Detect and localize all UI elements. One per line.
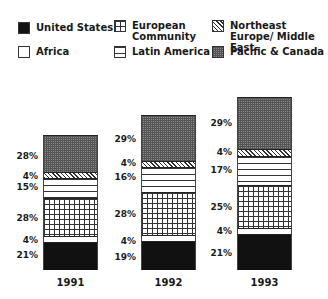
africa-swatch-icon [18,46,30,58]
seg-us [43,242,98,270]
ne-swatch-icon [212,20,224,32]
legend-pc: Pacific & Canada [212,46,324,58]
pct-label: 19% [106,252,136,262]
seg-la [43,178,98,198]
seg-ec [237,185,292,228]
bar-1992 [141,115,196,270]
pct-label: 4% [202,147,232,157]
seg-ne [237,149,292,156]
legend-africa: Africa [18,46,69,58]
seg-ec [141,192,196,235]
us-swatch-icon [18,22,30,34]
legend-us: United States [18,22,113,34]
pct-label: 4% [8,235,38,245]
pct-label: 21% [8,250,38,260]
pct-label: 25% [202,202,232,212]
ec-swatch-icon [114,20,126,32]
pct-label: 4% [106,158,136,168]
pct-label: 28% [8,151,38,161]
seg-pc [141,115,196,161]
seg-la [237,156,292,185]
pct-label: 4% [202,226,232,236]
legend-ec: European Community [114,20,204,42]
bar-1993 [237,97,292,270]
pct-label: 28% [8,213,38,223]
seg-la [141,167,196,192]
year-label: 1993 [237,277,292,288]
pct-label: 17% [202,165,232,175]
pct-label: 29% [106,134,136,144]
seg-us [237,234,292,270]
seg-us [141,241,196,270]
pct-label: 16% [106,172,136,182]
pc-swatch-icon [212,46,224,58]
year-label: 1992 [141,277,196,288]
pct-label: 21% [202,248,232,258]
seg-pc [43,135,98,172]
bar-1991 [43,135,98,270]
legend-la: Latin America [114,46,210,58]
pct-label: 28% [106,209,136,219]
seg-ec [43,198,98,236]
pct-label: 29% [202,118,232,128]
pct-label: 4% [8,171,38,181]
la-swatch-icon [114,46,126,58]
pct-label: 15% [8,182,38,192]
seg-pc [237,97,292,149]
pct-label: 4% [106,236,136,246]
year-label: 1991 [43,277,98,288]
